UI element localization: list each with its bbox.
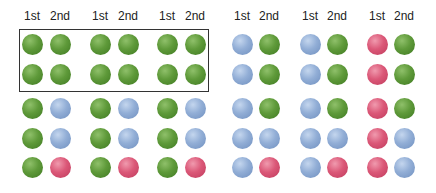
label-1st: 1st (85, 9, 115, 23)
green-ball (118, 64, 139, 85)
label-2nd: 2nd (389, 9, 419, 23)
green-ball (394, 98, 415, 119)
green-ball (50, 34, 71, 55)
blue-ball (300, 157, 321, 178)
red-ball (50, 157, 71, 178)
blue-ball (259, 128, 280, 149)
green-ball (327, 64, 348, 85)
blue-ball (232, 64, 253, 85)
blue-ball (50, 98, 71, 119)
green-ball (394, 64, 415, 85)
red-ball (185, 157, 206, 178)
blue-ball (185, 128, 206, 149)
red-ball (367, 34, 388, 55)
highlight-box (19, 29, 209, 92)
blue-ball (394, 157, 415, 178)
label-2nd: 2nd (113, 9, 143, 23)
green-ball (22, 128, 43, 149)
green-ball (185, 34, 206, 55)
label-2nd: 2nd (322, 9, 352, 23)
red-ball (118, 157, 139, 178)
blue-ball (394, 128, 415, 149)
blue-ball (300, 98, 321, 119)
green-ball (157, 157, 178, 178)
green-ball (259, 64, 280, 85)
label-1st: 1st (152, 9, 182, 23)
blue-ball (50, 128, 71, 149)
green-ball (50, 64, 71, 85)
green-ball (157, 98, 178, 119)
green-ball (90, 98, 111, 119)
red-ball (367, 64, 388, 85)
red-ball (259, 157, 280, 178)
label-2nd: 2nd (254, 9, 284, 23)
red-ball (367, 98, 388, 119)
green-ball (22, 98, 43, 119)
blue-ball (232, 157, 253, 178)
green-ball (185, 64, 206, 85)
blue-ball (185, 98, 206, 119)
green-ball (157, 34, 178, 55)
green-ball (157, 128, 178, 149)
green-ball (22, 64, 43, 85)
blue-ball (300, 128, 321, 149)
red-ball (367, 128, 388, 149)
blue-ball (118, 98, 139, 119)
green-ball (90, 128, 111, 149)
blue-ball (300, 34, 321, 55)
blue-ball (232, 98, 253, 119)
blue-ball (232, 34, 253, 55)
green-ball (118, 34, 139, 55)
green-ball (22, 157, 43, 178)
blue-ball (118, 128, 139, 149)
label-2nd: 2nd (180, 9, 210, 23)
green-ball (90, 64, 111, 85)
red-ball (327, 157, 348, 178)
red-ball (367, 157, 388, 178)
label-1st: 1st (362, 9, 392, 23)
green-ball (90, 157, 111, 178)
green-ball (259, 98, 280, 119)
green-ball (90, 34, 111, 55)
blue-ball (327, 128, 348, 149)
blue-ball (300, 64, 321, 85)
green-ball (394, 34, 415, 55)
label-1st: 1st (17, 9, 47, 23)
green-ball (259, 34, 280, 55)
label-2nd: 2nd (45, 9, 75, 23)
blue-ball (232, 128, 253, 149)
green-ball (22, 34, 43, 55)
label-1st: 1st (227, 9, 257, 23)
green-ball (327, 98, 348, 119)
green-ball (157, 64, 178, 85)
label-1st: 1st (295, 9, 325, 23)
green-ball (327, 34, 348, 55)
